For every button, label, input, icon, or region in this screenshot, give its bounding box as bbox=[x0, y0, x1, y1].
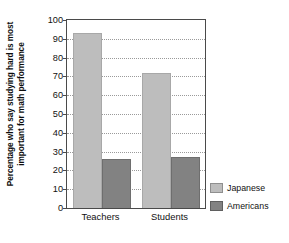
legend-swatch-icon-americans bbox=[210, 201, 223, 211]
bar-japanese-students bbox=[142, 73, 171, 208]
y-axis-tick-label: 100 bbox=[37, 16, 63, 25]
y-axis-title-line-1: Percentage who say studying hard is most bbox=[5, 0, 16, 208]
y-axis-tick-mark bbox=[63, 76, 67, 77]
y-axis-tick-mark bbox=[63, 58, 67, 59]
x-axis-tick-label: Teachers bbox=[66, 211, 135, 222]
x-axis-tick-labels: TeachersStudents bbox=[66, 211, 206, 227]
y-axis-tick-labels: 0102030405060708090100 bbox=[36, 19, 63, 209]
y-axis-tick-mark bbox=[63, 20, 67, 21]
chart-legend: Japanese Americans bbox=[210, 180, 286, 216]
y-axis-tick-mark bbox=[63, 133, 67, 134]
x-axis-tick-label: Students bbox=[135, 211, 204, 222]
bar-americans-teachers bbox=[102, 159, 131, 208]
y-axis-tick-label: 20 bbox=[37, 166, 63, 175]
y-axis-tick-label: 30 bbox=[37, 147, 63, 156]
y-axis-tick-label: 0 bbox=[37, 204, 63, 213]
y-axis-tick-label: 90 bbox=[37, 34, 63, 43]
plot-area bbox=[66, 19, 206, 209]
y-axis-tick-label: 80 bbox=[37, 53, 63, 62]
legend-label-japanese: Japanese bbox=[227, 183, 265, 193]
legend-item-americans: Americans bbox=[210, 198, 286, 213]
y-axis-tick-label: 50 bbox=[37, 110, 63, 119]
y-axis-tick-mark bbox=[63, 39, 67, 40]
legend-label-americans: Americans bbox=[227, 201, 269, 211]
y-axis-tick-mark bbox=[63, 189, 67, 190]
y-axis-tick-mark bbox=[63, 114, 67, 115]
legend-item-japanese: Japanese bbox=[210, 180, 286, 195]
y-axis-tick-mark bbox=[63, 152, 67, 153]
y-axis-tick-mark bbox=[63, 208, 67, 209]
y-axis-title-line-2: important for math performance bbox=[16, 0, 27, 208]
chart-figure: Percentage who say studying hard is most… bbox=[0, 0, 289, 243]
y-axis-tick-label: 10 bbox=[37, 185, 63, 194]
y-axis-tick-label: 70 bbox=[37, 72, 63, 81]
y-axis-tick-mark bbox=[63, 95, 67, 96]
bar-japanese-teachers bbox=[73, 33, 102, 208]
y-axis-title: Percentage who say studying hard is most… bbox=[0, 0, 32, 208]
y-axis-tick-label: 60 bbox=[37, 91, 63, 100]
plot-inner bbox=[67, 20, 205, 208]
legend-swatch-icon-japanese bbox=[210, 183, 223, 193]
bar-americans-students bbox=[171, 157, 200, 208]
y-axis-tick-label: 40 bbox=[37, 128, 63, 137]
y-axis-tick-mark bbox=[63, 170, 67, 171]
